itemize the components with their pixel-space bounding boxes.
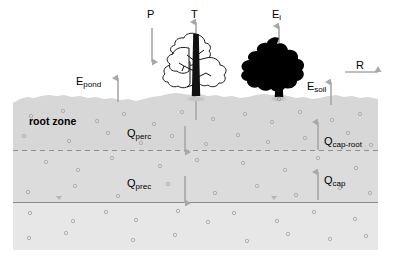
label-pond-evaporation: Epond [76, 76, 101, 87]
label-percolation: Qperc [127, 128, 151, 139]
label-capillary-rise-root: Qcap-root [324, 136, 362, 147]
outline-tree [163, 33, 226, 101]
label-deep-percolation: Qprec [127, 178, 151, 189]
outline-tree-base-shadow [187, 97, 205, 101]
diagram-canvas: P T Ei Epond Esoil R root zone Qperc Qpr… [0, 0, 393, 262]
label-precipitation: P [147, 9, 154, 20]
water-balance-diagram [0, 0, 393, 262]
saturated-zone-layer [13, 202, 378, 250]
outline-tree-trunk [192, 34, 200, 96]
label-soil-evaporation: Esoil [307, 81, 326, 92]
label-transpiration: T [191, 9, 198, 20]
label-runoff: R [356, 60, 364, 71]
outline-tree-canopy-lower-right [198, 57, 226, 86]
label-capillary-rise: Qcap [324, 175, 345, 186]
label-interception-evaporation: Ei [272, 9, 281, 20]
silhouette-tree-canopy [241, 37, 304, 91]
label-root-zone: root zone [29, 116, 76, 127]
silhouette-tree [241, 37, 304, 101]
